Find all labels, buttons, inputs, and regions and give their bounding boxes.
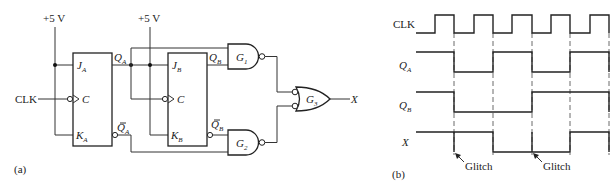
signal-label-qa: QA: [399, 59, 412, 74]
figure-canvas: +5 V CLK JA C KA QA QA +5 V: [0, 0, 610, 188]
waveform-qb: [416, 92, 609, 112]
supply-label-1: +5 V: [43, 12, 65, 24]
qa-to-clkb-wire: [131, 65, 163, 99]
supply-label-2: +5 V: [138, 12, 160, 24]
qb-label: QB: [209, 51, 222, 66]
waveform-x: [416, 132, 609, 152]
g2-output-bubble-icon: [259, 140, 265, 146]
signal-label-x: X: [401, 136, 410, 148]
ca-label: C: [82, 93, 90, 105]
junction-dot: [53, 63, 57, 67]
circuit-diagram: +5 V CLK JA C KA QA QA +5 V: [14, 12, 359, 176]
waveform-qa: [416, 52, 609, 72]
x-output-label: X: [350, 93, 359, 105]
waveform-clk: [416, 15, 609, 33]
clock-bubble-icon: [162, 96, 167, 101]
g1-output-bubble-icon: [259, 54, 265, 60]
clock-bubble-icon: [67, 96, 72, 101]
timing-diagram: CLK QA QB X Glitch Glitch (b): [392, 15, 609, 181]
qa-label: QA: [114, 51, 127, 66]
signal-label-qb: QB: [399, 99, 412, 114]
g2-to-g3-wire: [265, 106, 292, 143]
g1-to-g3-wire: [265, 57, 292, 93]
junction-dot: [148, 63, 152, 67]
panel-b-label: (b): [392, 168, 405, 181]
clk-input-label: CLK: [15, 93, 37, 105]
glitch-label-2: Glitch: [543, 160, 571, 172]
g3-input-bubble-icon: [292, 103, 298, 109]
qb-bar-bubble-icon: [207, 132, 212, 137]
g3-input-bubble-icon: [292, 89, 298, 95]
glitch-label-1: Glitch: [465, 160, 493, 172]
cb-label: C: [177, 93, 185, 105]
qa-bar-bubble-icon: [112, 132, 117, 137]
signal-label-clk: CLK: [393, 18, 415, 30]
panel-a-label: (a): [14, 163, 27, 176]
